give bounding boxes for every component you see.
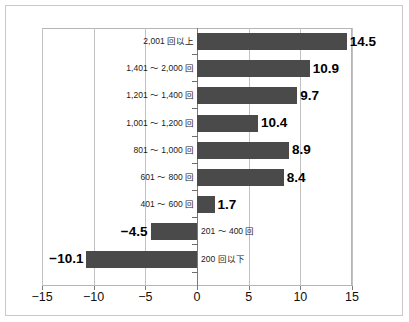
- category-label: 801 ～ 1,000 回: [133, 142, 194, 159]
- x-axis-tick-label: −15: [22, 290, 62, 304]
- category-label: 2,001 回以上: [143, 33, 194, 50]
- zero-axis-tick: [192, 217, 198, 218]
- zero-axis-tick: [192, 54, 198, 55]
- value-label: 10.4: [261, 114, 287, 131]
- category-label: 401 ～ 600 回: [141, 196, 194, 213]
- category-label: 1,201 ～ 1,400 回: [126, 87, 194, 104]
- category-label: 1,401 ～ 2,000 回: [126, 60, 194, 77]
- x-axis-tick-label: −10: [74, 290, 114, 304]
- value-label: −4.5: [121, 223, 148, 240]
- chart-figure: 2,001 回以上1,401 ～ 2,000 回1,201 ～ 1,400 回1…: [0, 0, 409, 322]
- zero-axis-tick: [192, 272, 198, 273]
- bar: [197, 33, 347, 50]
- bar: [197, 87, 297, 104]
- x-axis-tick-label: 5: [229, 290, 269, 304]
- gridline-neg15: [42, 28, 43, 286]
- category-label: 200 回以下: [201, 251, 245, 268]
- gridline-15: [352, 28, 353, 286]
- zero-axis-tick: [192, 136, 198, 137]
- bar: [197, 142, 289, 159]
- value-label: 8.9: [292, 141, 311, 158]
- category-label: 601 ～ 800 回: [141, 169, 194, 186]
- value-label: 1.7: [218, 196, 237, 213]
- bar: [151, 223, 198, 240]
- gridline-neg10: [94, 28, 95, 286]
- value-label: 14.5: [350, 33, 376, 50]
- x-axis-tick-label: 15: [332, 290, 372, 304]
- zero-axis-tick: [192, 163, 198, 164]
- bar: [197, 196, 215, 213]
- zero-axis-tick: [192, 108, 198, 109]
- value-label: 10.9: [313, 60, 339, 77]
- zero-axis-tick: [192, 190, 198, 191]
- value-label: −10.1: [49, 250, 83, 267]
- bar: [197, 115, 258, 132]
- value-label: 9.7: [300, 87, 319, 104]
- x-axis-tick-label: −5: [125, 290, 165, 304]
- bar: [197, 60, 310, 77]
- bar: [86, 251, 197, 268]
- bar: [197, 169, 284, 186]
- zero-axis-tick: [192, 81, 198, 82]
- category-label: 201 ～ 400 回: [201, 223, 254, 240]
- value-label: 8.4: [287, 169, 306, 186]
- category-label: 1,001 ～ 1,200 回: [126, 115, 194, 132]
- x-axis-tick-label: 10: [280, 290, 320, 304]
- zero-axis-tick: [192, 244, 198, 245]
- x-axis-tick-label: 0: [177, 290, 217, 304]
